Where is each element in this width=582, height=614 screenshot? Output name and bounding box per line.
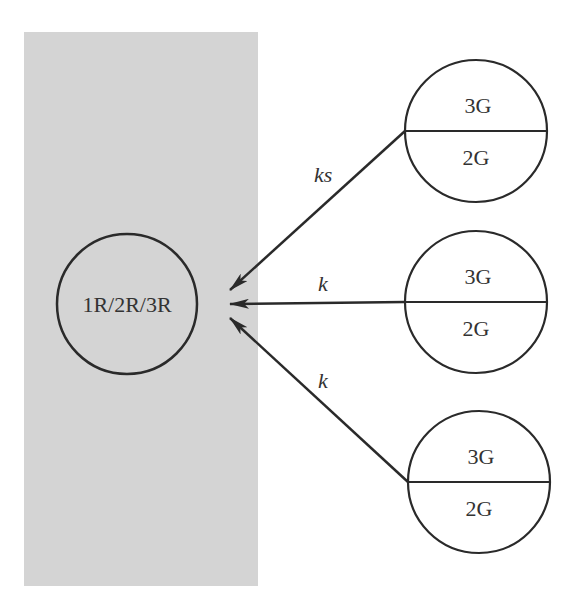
edge-rate-label: k xyxy=(318,368,329,393)
edge-rate-label: k xyxy=(318,271,329,296)
source-node-top-label: 3G xyxy=(468,444,495,469)
source-node: 3G2G xyxy=(405,231,547,373)
source-node: 3G2G xyxy=(405,60,547,202)
diagram-canvas: 1R/2R/3R 3G2G3G2G3G2G kskk xyxy=(0,0,582,614)
source-node-bottom-label: 2G xyxy=(466,496,493,521)
source-node-bottom-label: 2G xyxy=(463,145,490,170)
source-node-top-label: 3G xyxy=(465,93,492,118)
edge-rate-label: ks xyxy=(314,162,332,187)
source-node-bottom-label: 2G xyxy=(463,316,490,341)
source-nodes: 3G2G3G2G3G2G xyxy=(405,60,550,553)
source-node-top-label: 3G xyxy=(465,264,492,289)
center-node-label: 1R/2R/3R xyxy=(82,292,172,317)
source-node: 3G2G xyxy=(408,411,550,553)
